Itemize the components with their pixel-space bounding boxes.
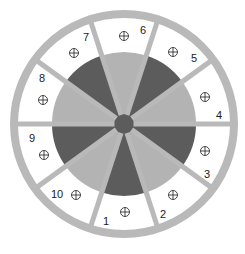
center-hub xyxy=(115,114,134,134)
hub-icon xyxy=(115,114,134,134)
circular-diagram: 12345678910 xyxy=(0,0,245,254)
segment-label-1: 1 xyxy=(103,215,109,227)
crosshair-icon xyxy=(39,96,48,105)
crosshair-icon xyxy=(72,191,81,200)
segment-label-6: 6 xyxy=(140,24,146,36)
crosshair-icon xyxy=(120,32,129,41)
segment-label-9: 9 xyxy=(29,132,35,144)
segment-label-7: 7 xyxy=(83,31,89,43)
crosshair-icon xyxy=(201,147,210,156)
crosshair-icon xyxy=(169,191,178,200)
segment-label-2: 2 xyxy=(160,208,166,220)
crosshair-icon xyxy=(70,49,79,58)
segment-label-4: 4 xyxy=(216,109,222,121)
crosshair-icon xyxy=(40,151,49,160)
crosshair-icon xyxy=(169,48,178,57)
crosshair-icon xyxy=(121,208,130,217)
segment-label-5: 5 xyxy=(191,52,197,64)
segment-label-8: 8 xyxy=(39,72,45,84)
segment-label-10: 10 xyxy=(51,188,63,200)
crosshair-icon xyxy=(201,93,210,102)
segment-label-3: 3 xyxy=(204,168,210,180)
